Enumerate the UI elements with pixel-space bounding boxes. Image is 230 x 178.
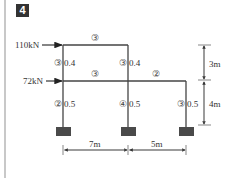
- column-mark-lower-right: ③: [177, 99, 185, 109]
- column-ratio-upper-left: 0.4: [64, 58, 76, 68]
- column-mark-upper-left: ③: [54, 58, 62, 68]
- beam-mark-top: ③: [91, 33, 99, 43]
- column-mark-upper-middle: ③: [119, 58, 127, 68]
- dimension-height-lower: 4m: [209, 99, 221, 109]
- column-mark-lower-left: ②: [54, 99, 62, 109]
- dimension-height-upper: 3m: [209, 59, 221, 69]
- column-ratio-lower-left: 0.5: [64, 99, 76, 109]
- support-right: [179, 127, 194, 136]
- column-ratio-lower-right: 0.5: [187, 99, 199, 109]
- load-label-top: 110kN: [15, 40, 40, 50]
- support-left: [56, 127, 71, 136]
- support-middle: [121, 127, 136, 136]
- beam-mark-mid-right: ②: [152, 69, 160, 79]
- column-ratio-upper-middle: 0.4: [129, 58, 141, 68]
- dimension-span-left: 7m: [89, 139, 101, 149]
- column-mark-lower-middle: ④: [119, 99, 127, 109]
- dimension-span-right: 5m: [151, 139, 163, 149]
- column-ratio-lower-middle: 0.5: [129, 99, 141, 109]
- beam-mark-mid-left: ③: [91, 69, 99, 79]
- frame-diagram: 110kN 72kN ③ ③ ② ③ 0.4 ③ 0.4 ② 0.5 ④ 0.5…: [0, 0, 230, 178]
- load-label-middle: 72kN: [23, 76, 44, 86]
